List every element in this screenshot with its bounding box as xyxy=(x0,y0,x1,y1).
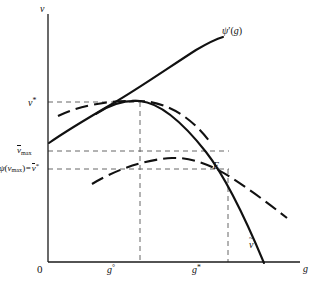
origin-label: 0 xyxy=(37,264,43,275)
curves xyxy=(49,37,287,263)
x-axis-label: g xyxy=(303,264,308,274)
y-tick-label-v-star: v* xyxy=(28,97,36,108)
plot-canvas xyxy=(0,0,322,287)
x-tick-label-g-nought: g° xyxy=(107,264,115,275)
x-tick-label-g-star: g* xyxy=(192,264,201,275)
y-tick-label-v-bar-max: vmax xyxy=(17,146,32,156)
point-label-E: E xyxy=(213,161,219,171)
curve-psi-prime-g xyxy=(49,37,223,143)
figure-container: v g 0 v* vmax ψ(vmax) = v* ψ′(g) E v g° … xyxy=(0,0,322,287)
curve-label-psi-prime-g: ψ′(g) xyxy=(222,26,242,36)
y-axis-label: v xyxy=(40,4,44,14)
curve-lower-dashed xyxy=(92,158,287,218)
y-tick-label-psi-v-max: ψ(vmax) = v* xyxy=(0,163,39,174)
curve-label-v-tilde: v xyxy=(249,240,253,250)
axes xyxy=(48,14,300,262)
